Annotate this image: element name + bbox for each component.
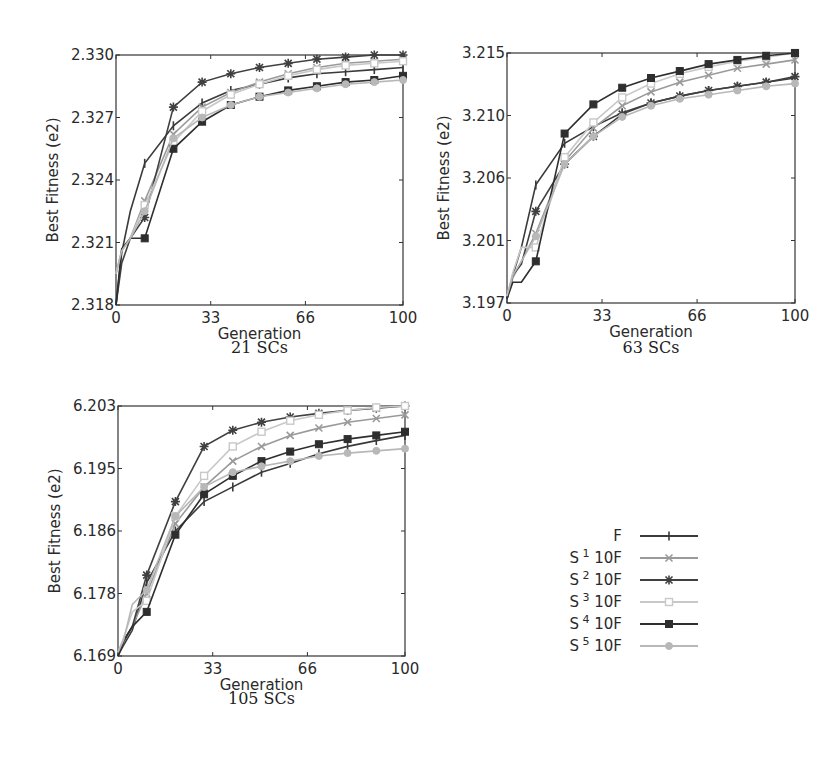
y-tick-label: 3.201	[462, 232, 505, 250]
chart-1: 2.3182.3212.3242.3272.33003366100Generat…	[44, 46, 417, 357]
y-tick-label: 2.324	[71, 171, 114, 189]
legend-label: S 5 10F	[569, 635, 622, 655]
chart-3: 6.1696.1786.1866.1956.20303366100Generat…	[46, 397, 419, 708]
legend-entry: S 1 10F	[569, 547, 698, 567]
x-tick-label: 0	[502, 307, 512, 325]
y-tick-label: 6.178	[73, 585, 116, 603]
series-line	[118, 445, 409, 652]
series-line	[507, 50, 799, 297]
y-tick-label: 6.186	[73, 522, 116, 540]
x-tick-label: 0	[111, 309, 121, 327]
legend-label: S 4 10F	[569, 613, 622, 633]
y-axis-label: Best Fitness (e2)	[46, 468, 64, 593]
y-tick-label: 2.318	[71, 296, 114, 314]
x-tick-label: 100	[781, 307, 810, 325]
series-line	[116, 51, 408, 306]
series-line	[116, 77, 407, 274]
series-line	[118, 403, 409, 653]
chart-caption: 105 SCs	[228, 689, 295, 708]
y-tick-label: 3.197	[462, 294, 505, 312]
legend: FS 1 10FS 2 10FS 3 10FS 4 10FS 5 10F	[569, 527, 698, 655]
legend-entry: S 4 10F	[569, 613, 698, 633]
y-tick-label: 6.169	[73, 647, 116, 665]
legend-label: S 3 10F	[569, 591, 622, 611]
legend-label: S 2 10F	[569, 569, 622, 589]
legend-label: S 1 10F	[569, 547, 622, 567]
y-tick-label: 6.203	[73, 397, 116, 415]
legend-label: F	[613, 527, 622, 545]
y-tick-label: 2.321	[71, 234, 114, 252]
chart-caption: 21 SCs	[231, 338, 288, 357]
series-line	[118, 402, 410, 657]
chart-2: 3.1973.2013.2063.2103.21503366100Generat…	[435, 44, 809, 357]
y-tick-label: 3.206	[462, 169, 505, 187]
y-axis-label: Best Fitness (e2)	[44, 117, 62, 242]
series-line	[116, 72, 407, 305]
series-line	[118, 428, 409, 656]
legend-entry: F	[613, 527, 698, 545]
legend-entry: S 3 10F	[569, 591, 698, 611]
x-tick-label: 100	[389, 309, 418, 327]
legend-entry: S 2 10F	[569, 569, 698, 589]
chart-caption: 63 SCs	[623, 338, 680, 357]
y-tick-label: 3.210	[462, 107, 505, 125]
plot-frame	[116, 55, 403, 305]
y-tick-label: 6.195	[73, 460, 116, 478]
x-tick-label: 100	[391, 660, 420, 678]
figure: 2.3182.3212.3242.3272.33003366100Generat…	[0, 0, 840, 767]
plot-frame	[507, 53, 795, 303]
series-line	[116, 56, 407, 274]
y-axis-label: Best Fitness (e2)	[435, 115, 453, 240]
y-tick-label: 3.215	[462, 44, 505, 62]
series-line	[507, 56, 799, 296]
series-line	[118, 411, 409, 652]
y-tick-label: 2.330	[71, 46, 114, 64]
x-tick-label: 0	[113, 660, 123, 678]
legend-entry: S 5 10F	[569, 635, 698, 655]
y-tick-label: 2.327	[71, 109, 114, 127]
